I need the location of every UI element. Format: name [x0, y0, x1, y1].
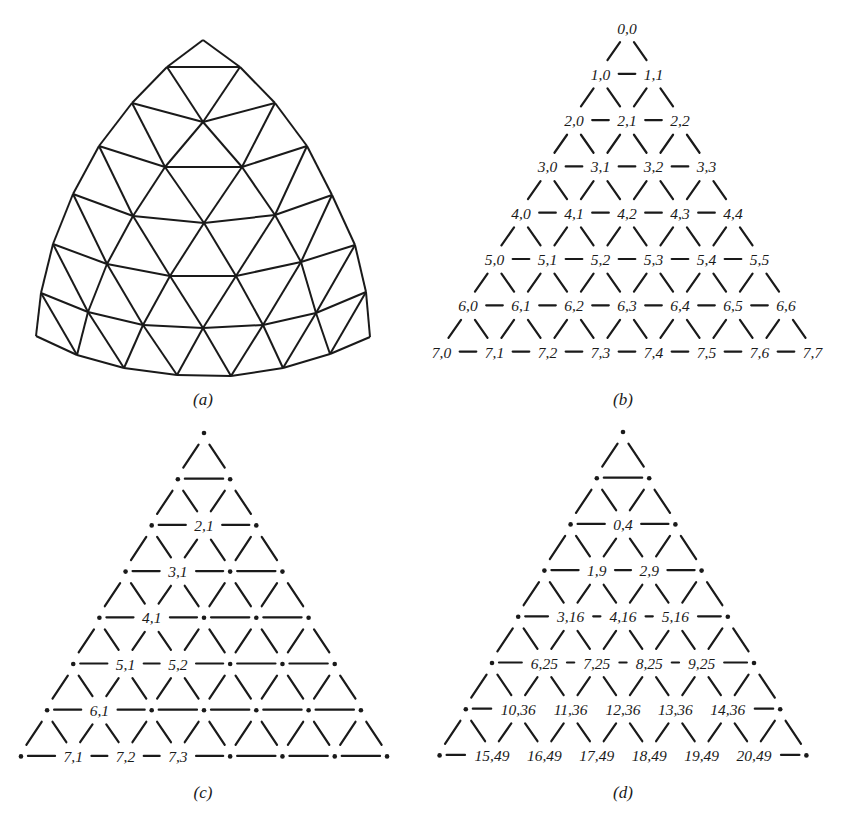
- lattice-node-dot: [621, 430, 626, 435]
- mesh-edge: [204, 215, 275, 223]
- lattice-edge-diagonal: [209, 722, 224, 745]
- lattice-node-label: 3,16: [556, 608, 584, 625]
- lattice-node-dot: [726, 615, 731, 620]
- mesh-edge: [167, 40, 203, 67]
- lattice-node-label: 6,5: [723, 297, 743, 314]
- lattice-edge-diagonal: [687, 135, 700, 153]
- lattice-node-label: 9,25: [688, 655, 715, 672]
- lattice-edge-diagonal: [131, 537, 146, 560]
- lattice-node-dot: [804, 753, 809, 758]
- mesh-edge: [263, 262, 301, 325]
- lattice-node-label: 6,2: [564, 297, 584, 314]
- lattice-node-label: 6,25: [531, 655, 558, 672]
- lattice-edge-diagonal: [262, 722, 277, 745]
- lattice-edge-diagonal: [766, 274, 779, 292]
- lattice-edge-diagonal: [314, 722, 329, 745]
- lattice-edge-diagonal: [211, 540, 225, 560]
- lattice-edge-diagonal: [634, 227, 647, 245]
- lattice-edge-diagonal: [604, 677, 616, 695]
- lattice-node-label: 7,4: [644, 344, 664, 361]
- lattice-node-label: 4,4: [723, 205, 743, 222]
- lattice-node-label: 7,7: [803, 344, 824, 361]
- lattice-edge-diagonal: [262, 583, 277, 606]
- lattice-node-dot: [254, 523, 259, 528]
- lattice-edge-diagonal: [157, 491, 172, 514]
- mesh-edge: [355, 245, 366, 292]
- lattice-edge-diagonal: [183, 445, 198, 468]
- lattice-node-label: 5,3: [644, 251, 664, 268]
- mesh-edge: [36, 293, 41, 336]
- lattice-edge-diagonal: [656, 723, 668, 741]
- lattice-edge-diagonal: [681, 536, 696, 559]
- lattice-edge-diagonal: [288, 722, 303, 745]
- mesh-edge: [316, 292, 366, 313]
- lattice-edge-diagonal: [157, 537, 171, 557]
- mesh-edge: [99, 103, 132, 146]
- lattice-node-label: 5,1: [116, 656, 135, 673]
- lattice-node-label: 4,1: [142, 609, 161, 626]
- mesh-edge: [177, 375, 231, 376]
- lattice-edge-diagonal: [660, 274, 673, 292]
- lattice-node-label: 7,5: [697, 344, 717, 361]
- lattice-edge-diagonal: [157, 722, 171, 742]
- lattice-edge-diagonal: [26, 722, 41, 745]
- lattice-node-dot: [464, 707, 469, 712]
- caption-d: (d): [613, 783, 633, 802]
- lattice-node-dot: [437, 753, 442, 758]
- lattice-node-label: 6,4: [670, 297, 690, 314]
- lattice-edge-diagonal: [528, 181, 541, 199]
- lattice-edge-diagonal: [607, 42, 620, 60]
- mesh-edge: [236, 215, 275, 276]
- mesh-edge: [132, 67, 167, 103]
- mesh-edge: [203, 122, 242, 167]
- lattice-edge-diagonal: [236, 676, 251, 699]
- lattice-node-label: 4,0: [511, 205, 531, 222]
- lattice-edge-diagonal: [607, 88, 620, 106]
- lattice-node-dot: [306, 708, 311, 713]
- lattice-node-label: 3,0: [537, 158, 558, 175]
- mesh-edge: [143, 325, 203, 328]
- lattice-node-dot: [202, 708, 207, 713]
- lattice-edge-diagonal: [630, 631, 642, 649]
- lattice-node-label: 2,0: [564, 112, 584, 129]
- lattice-edge-diagonal: [262, 676, 277, 699]
- lattice-node-dot: [149, 523, 154, 528]
- lattice-node-dot: [385, 754, 390, 759]
- lattice-edge-diagonal: [766, 320, 779, 338]
- lattice-edge-diagonal: [471, 675, 486, 698]
- lattice-node-label: 4,2: [617, 205, 637, 222]
- mesh-edge: [165, 167, 204, 223]
- lattice-edge-diagonal: [630, 490, 644, 510]
- mesh-edge: [77, 312, 88, 355]
- lattice-node-label: 8,25: [636, 655, 663, 672]
- mesh-edge: [231, 368, 283, 376]
- lattice-edge-diagonal: [581, 135, 594, 153]
- lattice-node-dot: [202, 431, 207, 436]
- lattice-node-dot: [647, 476, 652, 481]
- mesh-edge: [263, 325, 283, 368]
- mesh-edge: [107, 264, 170, 276]
- lattice-edge-diagonal: [236, 537, 251, 560]
- lattice-edge-diagonal: [634, 320, 647, 338]
- mesh-edge: [88, 264, 107, 312]
- lattice-node-dot: [71, 662, 76, 667]
- lattice-edge-diagonal: [340, 722, 355, 745]
- lattice-edge-diagonal: [209, 629, 224, 652]
- mesh-edge: [107, 216, 133, 264]
- lattice-edge-diagonal: [634, 42, 647, 60]
- lattice-edge-diagonal: [581, 227, 594, 245]
- lattice-edge-diagonal: [551, 723, 563, 741]
- lattice-node-label: 10,36: [501, 701, 536, 718]
- lattice-node-label: 17,49: [579, 747, 614, 764]
- caption-c: (c): [194, 783, 213, 802]
- lattice-edge-diagonal: [554, 135, 567, 153]
- lattice-edge-diagonal: [288, 629, 303, 652]
- lattice-node-label: 11,36: [554, 701, 588, 718]
- lattice-edge-diagonal: [132, 632, 144, 650]
- lattice-edge-diagonal: [551, 631, 563, 649]
- lattice-edge-diagonal: [554, 181, 567, 199]
- panel-c-partial-labels: 2,13,14,15,15,26,17,17,27,3: [19, 431, 390, 765]
- panel-d-sequential-labels: 0,41,92,93,164,165,166,257,258,259,2510,…: [437, 430, 808, 764]
- lattice-node-dot: [332, 662, 337, 667]
- mesh-edge: [275, 215, 301, 262]
